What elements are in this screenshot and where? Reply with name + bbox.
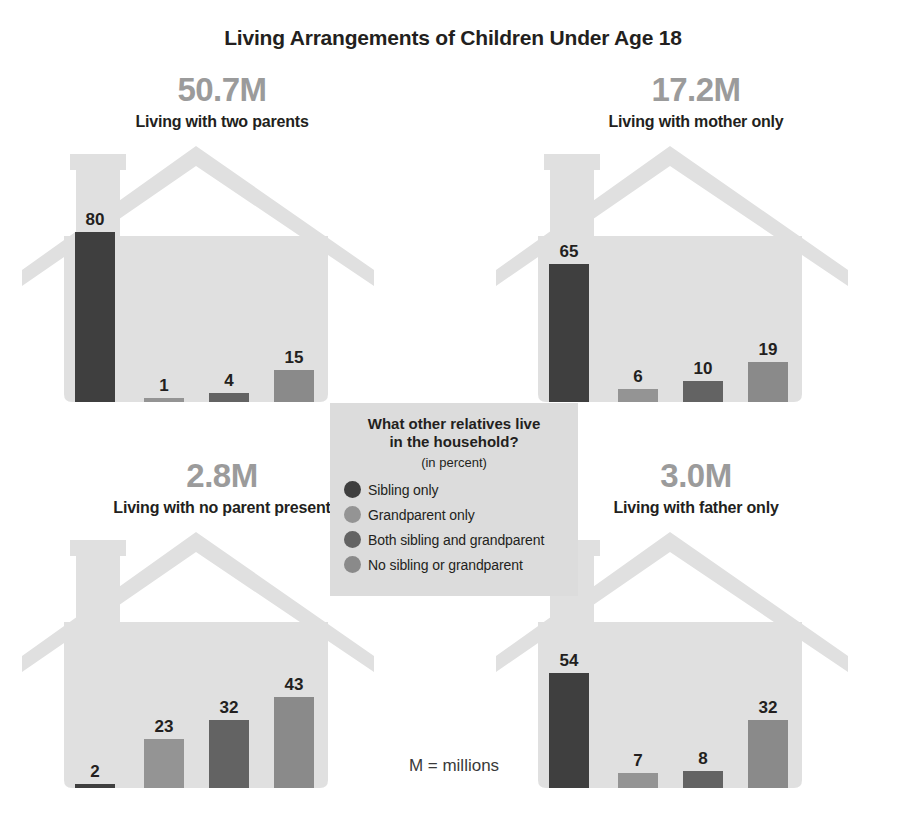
legend-item-label: Sibling only (368, 482, 438, 498)
legend-swatch-circle-icon (344, 531, 361, 548)
bar-rect (209, 393, 249, 402)
bar-rect (274, 370, 314, 402)
legend-item-label: Grandparent only (368, 507, 475, 523)
legend-title: What other relatives live in the househo… (330, 415, 578, 451)
legend-swatch-circle-icon (344, 556, 361, 573)
bar-rect (75, 232, 115, 402)
bar-rect (683, 771, 723, 788)
legend-item: Sibling only (344, 477, 578, 502)
bar-value-label: 23 (144, 717, 184, 736)
legend-item: No sibling or grandparent (344, 552, 578, 577)
bar-rect (144, 739, 184, 788)
bar-value-label: 10 (683, 359, 723, 378)
legend-title-line2: in the household? (389, 433, 518, 450)
legend-item-label: Both sibling and grandparent (368, 532, 544, 548)
bar-value-label: 6 (618, 367, 658, 386)
legend: What other relatives live in the househo… (330, 403, 578, 596)
page-title: Living Arrangements of Children Under Ag… (0, 26, 906, 50)
legend-item: Both sibling and grandparent (344, 527, 578, 552)
bar-value-label: 65 (549, 242, 589, 261)
legend-item: Grandparent only (344, 502, 578, 527)
bar-value-label: 8 (683, 749, 723, 768)
bar-value-label: 43 (274, 675, 314, 694)
bar-value-label: 80 (75, 210, 115, 229)
bar-rect (748, 720, 788, 788)
legend-item-label: No sibling or grandparent (368, 557, 523, 573)
bar-rect (75, 784, 115, 788)
bar-rect (274, 697, 314, 788)
legend-subtitle: (in percent) (330, 455, 578, 470)
bar-rect (549, 264, 589, 402)
bar-rect (618, 389, 658, 402)
footnote: M = millions (330, 756, 578, 776)
bar-value-label: 54 (549, 651, 589, 670)
panel-count: 17.2M (496, 72, 896, 108)
bar-value-label: 32 (209, 698, 249, 717)
legend-items: Sibling onlyGrandparent onlyBoth sibling… (330, 477, 578, 577)
bar-value-label: 2 (75, 762, 115, 781)
legend-swatch-circle-icon (344, 481, 361, 498)
bar-rect (618, 773, 658, 788)
legend-title-line1: What other relatives live (368, 415, 541, 432)
bar-value-label: 7 (618, 751, 658, 770)
bar-group: 801415 (22, 140, 422, 402)
panel-two-parents: 50.7M Living with two parents 801415 (22, 72, 422, 427)
bar-group: 6561019 (496, 140, 896, 402)
bar-value-label: 19 (748, 340, 788, 359)
bar-rect (144, 398, 184, 402)
panel-mother-only: 17.2M Living with mother only 6561019 (496, 72, 896, 427)
panel-label: Living with two parents (22, 113, 422, 131)
panel-label: Living with mother only (496, 113, 896, 131)
bar-rect (209, 720, 249, 788)
bar-value-label: 32 (748, 698, 788, 717)
bar-rect (683, 381, 723, 402)
panel-count: 50.7M (22, 72, 422, 108)
bar-rect (748, 362, 788, 402)
bar-value-label: 15 (274, 348, 314, 367)
bar-value-label: 4 (209, 371, 249, 390)
bar-value-label: 1 (144, 376, 184, 395)
legend-swatch-circle-icon (344, 506, 361, 523)
